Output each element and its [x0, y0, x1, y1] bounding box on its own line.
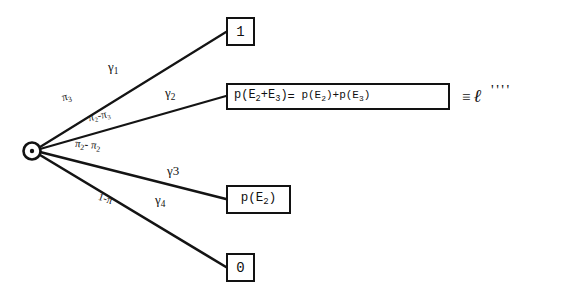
outcome-value-zero: 0	[236, 261, 244, 275]
gamma-2-subscript: 2	[171, 92, 176, 102]
eq-lhs-plus: +E	[261, 88, 275, 102]
pe2-prefix: p(E	[241, 191, 264, 205]
eq-rhs-p1: p(E	[301, 89, 321, 101]
pe2-suffix: )	[269, 191, 277, 205]
gamma-3-subscript: 3	[173, 163, 180, 178]
eq-lhs-close: )	[280, 88, 287, 102]
eq-rhs-close-2: )	[364, 89, 371, 101]
equation-rhs: p(E2)+p(E3)	[295, 90, 371, 102]
outcome-box-zero[interactable]: 0	[226, 253, 255, 282]
edge-label-gamma-2: γ2	[165, 86, 175, 102]
edge-label-gamma-3: γ3	[167, 164, 179, 177]
equation-equals: =	[288, 91, 295, 103]
chance-node	[24, 143, 41, 160]
tick-marks: ''''	[481, 82, 512, 98]
ell-symbol: ℓ	[470, 86, 481, 106]
edge-label-gamma-4: γ4	[155, 193, 165, 209]
outcome-box-one[interactable]: 1	[226, 17, 255, 46]
pi-minus-sign: -	[84, 138, 89, 150]
edge-label-gamma-1: γ1	[108, 60, 118, 76]
edge-label-pi-2-minus-pi-2: π2- π2	[74, 138, 101, 154]
eq-lhs-p: p(E	[234, 88, 256, 102]
gamma-4-subscript: 4	[161, 199, 166, 209]
gamma-1-subscript: 1	[114, 66, 119, 76]
edge-branch-4	[40, 155, 226, 267]
outcome-box-probability-e2[interactable]: p(E2)	[226, 185, 291, 214]
edge-branch-3	[40, 152, 226, 199]
equation-lhs: p(E2+E3)	[234, 89, 288, 103]
outcome-value-pe2: p(E2)	[241, 192, 276, 207]
equivalence-annotation: ≡ℓ''''	[462, 83, 512, 105]
outcome-value-one: 1	[236, 25, 244, 39]
eq-rhs-close-1: )+p(E	[326, 89, 359, 101]
outcome-box-additivity-equation[interactable]: p(E2+E3)= p(E2)+p(E3)	[226, 83, 450, 110]
